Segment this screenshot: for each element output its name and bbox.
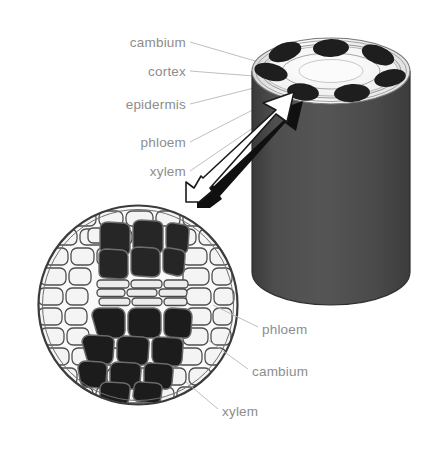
label-cortex-left: cortex xyxy=(148,65,186,79)
stem-cylinder xyxy=(252,38,410,305)
label-epidermis-left: epidermis xyxy=(126,98,186,112)
inner-ground-ring xyxy=(299,60,363,83)
label-cambium-left: cambium xyxy=(130,36,186,50)
label-xylem-left: xylem xyxy=(150,165,186,179)
cambium-cells xyxy=(97,280,188,306)
phloem-cells xyxy=(99,220,189,279)
diagram-artwork xyxy=(0,0,429,458)
label-cambium-right: cambium xyxy=(252,365,308,379)
magnified-cross-section xyxy=(38,206,238,405)
diagram-canvas: cambium cortex epidermis phloem xylem ph… xyxy=(0,0,429,458)
label-phloem-left: phloem xyxy=(141,136,186,150)
label-phloem-right: phloem xyxy=(262,323,307,337)
label-xylem-right: xylem xyxy=(222,405,258,419)
leader-epidermis xyxy=(190,87,258,104)
leader-xylem-right xyxy=(186,382,218,409)
